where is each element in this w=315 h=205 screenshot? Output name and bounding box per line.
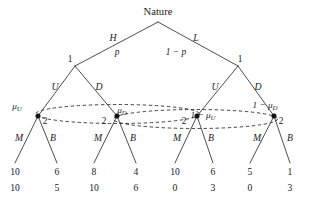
belief-label-n1: μU bbox=[11, 101, 23, 112]
nature-root-label: Nature bbox=[144, 6, 173, 17]
player2-action-label-0: M bbox=[14, 132, 24, 143]
edge-nature-L bbox=[158, 22, 238, 66]
player2-action-label-6: M bbox=[252, 132, 262, 143]
terminal-payoff1-3: 4 bbox=[134, 166, 139, 177]
terminal-payoff2-0: 10 bbox=[10, 182, 20, 193]
nature-action-label-H: H bbox=[108, 32, 117, 43]
player2-node-label-n1: 2 bbox=[43, 116, 48, 126]
belief-label-n4: 1 − μD bbox=[253, 100, 278, 111]
terminal-payoff1-7: 1 bbox=[288, 166, 293, 177]
player2-node-label-n2: 2 bbox=[102, 116, 107, 126]
terminal-payoff1-4: 10 bbox=[170, 166, 180, 177]
decision-node-group bbox=[36, 114, 277, 119]
terminal-payoff2-3: 6 bbox=[134, 182, 139, 193]
terminal-payoff1-0: 10 bbox=[10, 166, 20, 177]
player1-action-label-0: U bbox=[51, 81, 59, 92]
information-set-group bbox=[36, 105, 278, 129]
terminal-payoff1-5: 6 bbox=[211, 166, 216, 177]
player2-node-label-n3: 2 bbox=[182, 116, 187, 126]
terminal-payoff2-1: 5 bbox=[55, 182, 60, 193]
player1-action-label-3: D bbox=[253, 81, 261, 92]
game-tree-figure: NatureHpL1 − p11UDUD2μU2μD21 − μU21 − μD… bbox=[0, 0, 315, 205]
player2-node-dot-n4[interactable] bbox=[272, 114, 277, 119]
label-group: NatureHpL1 − p11UDUD2μU2μD21 − μU21 − μD… bbox=[10, 6, 293, 193]
terminal-payoff1-2: 8 bbox=[92, 166, 97, 177]
edge-nature-H bbox=[75, 22, 158, 66]
player2-action-label-5: B bbox=[208, 132, 214, 143]
nature-probability-label-1: 1 − p bbox=[166, 47, 187, 57]
game-tree-canvas: NatureHpL1 − p11UDUD2μU2μD21 − μU21 − μD… bbox=[0, 0, 315, 205]
player1-node-label-p1-right: 1 bbox=[238, 54, 243, 64]
player2-node-dot-n1[interactable] bbox=[36, 114, 41, 119]
terminal-payoff1-1: 6 bbox=[55, 166, 60, 177]
player2-action-label-2: M bbox=[93, 132, 103, 143]
player2-action-label-1: B bbox=[50, 132, 56, 143]
terminal-payoff1-6: 5 bbox=[248, 166, 253, 177]
terminal-payoff2-5: 3 bbox=[211, 182, 216, 193]
player1-action-label-2: U bbox=[211, 81, 219, 92]
player2-node-label-n4: 2 bbox=[279, 116, 284, 126]
belief-label-n3: 1 − μU bbox=[191, 110, 217, 121]
terminal-payoff2-6: 0 bbox=[248, 182, 253, 193]
player2-action-label-7: B bbox=[287, 132, 293, 143]
edge-group bbox=[15, 22, 290, 163]
player2-action-label-3: B bbox=[130, 132, 136, 143]
player1-action-label-1: D bbox=[94, 81, 102, 92]
player2-action-label-4: M bbox=[172, 132, 182, 143]
nature-action-label-L: L bbox=[192, 32, 198, 43]
terminal-payoff2-2: 10 bbox=[89, 182, 99, 193]
player1-node-label-p1-left: 1 bbox=[68, 54, 73, 64]
terminal-payoff2-7: 3 bbox=[288, 182, 293, 193]
terminal-payoff2-4: 0 bbox=[173, 182, 178, 193]
nature-probability-label-0: p bbox=[114, 47, 120, 57]
belief-label-n2: μD bbox=[116, 105, 127, 116]
